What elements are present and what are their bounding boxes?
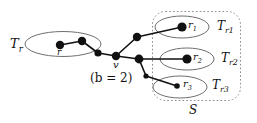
label-node-r2-subscript: 2: [198, 57, 202, 65]
label-tree-r-subscript: r: [19, 44, 23, 54]
ellipse-tree-r3: [153, 76, 207, 98]
label-tree-r3-letter: T: [212, 78, 220, 92]
tree-decomposition-figure: Tr r v (b = 2) r1 r2 r3 Tr1 Tr2 Tr3 S: [0, 0, 257, 123]
label-node-r3-subscript: 3: [188, 84, 192, 92]
label-tree-r-letter: T: [10, 36, 19, 51]
label-tree-r: Tr: [10, 37, 23, 53]
label-node-r3: r3: [183, 79, 192, 92]
label-node-r1-subscript: 1: [193, 25, 197, 33]
label-node-r: r: [57, 48, 61, 57]
label-tree-r2: Tr2: [221, 52, 238, 67]
label-tree-r2-subscript: r2: [229, 58, 238, 67]
vertex-n2: [78, 37, 86, 45]
vertex-n6: [135, 55, 144, 64]
label-tree-r2-letter: T: [221, 51, 229, 65]
label-node-r-text: r: [57, 47, 61, 57]
label-node-r2: r2: [193, 52, 202, 65]
vertex-r1: [177, 22, 186, 31]
edge-n7-r3: [146, 76, 177, 86]
vertex-n3: [94, 49, 101, 56]
label-node-v-text: v: [113, 59, 119, 70]
label-tree-r1: Tr1: [217, 20, 234, 35]
edge-v-n5: [116, 37, 137, 56]
label-set-s-text: S: [189, 103, 197, 117]
label-set-s: S: [189, 104, 197, 116]
edge-n5-r1: [137, 27, 182, 37]
label-budget: (b = 2): [90, 72, 132, 84]
vertex-r2: [182, 54, 191, 63]
label-node-r1: r1: [188, 20, 197, 33]
label-node-v: v: [113, 60, 119, 70]
label-tree-r1-letter: T: [217, 19, 225, 33]
label-tree-r1-subscript: r1: [225, 26, 234, 35]
label-tree-r3-subscript: r3: [220, 85, 229, 94]
vertex-n5: [133, 33, 141, 41]
label-budget-text: (b = 2): [90, 71, 132, 85]
label-tree-r3: Tr3: [212, 79, 229, 94]
vertex-r3: [174, 83, 180, 89]
vertex-n7: [143, 73, 148, 78]
